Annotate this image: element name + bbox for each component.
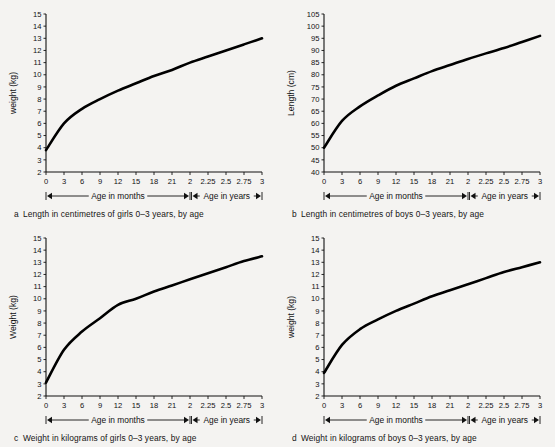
x-tick-label: 18: [428, 401, 436, 410]
y-tick-label: 7: [37, 107, 41, 116]
y-tick-label: 11: [34, 282, 42, 291]
y-tick-label: 2: [37, 168, 41, 177]
y-tick-label: 12: [33, 270, 41, 279]
chart-b-caption-letter: b: [292, 209, 301, 219]
x-tick-label: 21: [446, 401, 454, 410]
chart-d-plot: 2345678910111213141503691215182122.252.5…: [278, 224, 555, 427]
age-in-years-label: Age in years: [203, 415, 250, 425]
x-tick-label: 0: [322, 177, 326, 186]
y-tick-label: 14: [311, 246, 319, 255]
x-tick-label: 6: [80, 401, 84, 410]
y-tick-label: 3: [37, 156, 41, 165]
x-tick-label: 18: [150, 177, 158, 186]
x-tick-label: 3: [538, 401, 542, 410]
y-tick-label: 5: [315, 355, 319, 364]
x-tick-label: 3: [62, 401, 66, 410]
x-tick-label: 15: [410, 401, 418, 410]
y-tick-label: 15: [311, 234, 319, 243]
x-tick-label: 0: [44, 177, 48, 186]
y-tick-label: 45: [311, 156, 319, 165]
x-tick-label: 2.5: [499, 401, 510, 410]
y-tick-label: 75: [311, 83, 319, 92]
chart-a-caption-text: Length in centimetres of girls 0–3 years…: [23, 209, 204, 219]
chart-c-caption-letter: c: [14, 433, 23, 443]
growth-curve-line: [46, 256, 262, 382]
chart-d-caption-letter: d: [292, 433, 301, 443]
y-tick-label: 7: [37, 331, 41, 340]
x-tick-label: 2.25: [479, 177, 494, 186]
y-tick-label: 13: [33, 34, 41, 43]
y-tick-label: 70: [311, 95, 319, 104]
y-tick-label: 2: [37, 392, 41, 401]
x-tick-label: 21: [168, 401, 176, 410]
y-tick-label: 6: [37, 343, 41, 352]
chart-b-caption: bLength in centimetres of boys 0–3 years…: [292, 209, 484, 219]
x-tick-label: 6: [80, 177, 84, 186]
y-tick-label: 12: [311, 270, 319, 279]
x-tick-label: 21: [168, 177, 176, 186]
y-tick-label: 13: [33, 258, 41, 267]
x-tick-label: 3: [340, 177, 344, 186]
age-in-months-label: Age in months: [91, 415, 145, 425]
age-in-years-label: Age in years: [481, 191, 528, 201]
x-tick-label: 15: [410, 177, 418, 186]
chart-a-caption: aLength in centimetres of girls 0–3 year…: [14, 209, 204, 219]
x-tick-label: 21: [446, 177, 454, 186]
x-tick-label: 3: [62, 177, 66, 186]
y-tick-label: 50: [311, 143, 319, 152]
x-tick-label: 0: [322, 401, 326, 410]
age-in-years-label: Age in years: [481, 415, 528, 425]
chart-c-plot: 2345678910111213141503691215182122.252.5…: [0, 224, 277, 427]
x-tick-label: 2.25: [201, 177, 216, 186]
y-tick-label: 10: [311, 294, 319, 303]
y-tick-label: 12: [33, 46, 41, 55]
x-tick-label: 3: [260, 401, 264, 410]
y-tick-label: 3: [315, 380, 319, 389]
y-tick-label: 14: [33, 246, 41, 255]
x-tick-label: 2.75: [515, 401, 530, 410]
x-tick-label: 12: [392, 401, 400, 410]
y-tick-label: 8: [37, 319, 41, 328]
x-tick-label: 2: [188, 177, 192, 186]
x-tick-label: 0: [44, 401, 48, 410]
y-tick-label: 85: [311, 58, 319, 67]
x-tick-label: 9: [98, 401, 102, 410]
chart-c-caption-text: Weight in kilograms of girls 0–3 years, …: [23, 433, 196, 443]
x-tick-label: 2: [466, 177, 470, 186]
y-tick-label: 65: [311, 107, 319, 116]
y-tick-label: 60: [311, 119, 319, 128]
x-tick-label: 15: [132, 177, 140, 186]
x-tick-label: 9: [376, 401, 380, 410]
y-tick-label: 7: [315, 331, 319, 340]
x-tick-label: 3: [340, 401, 344, 410]
y-tick-label: 3: [37, 380, 41, 389]
y-tick-label: 8: [37, 95, 41, 104]
x-tick-label: 2.5: [499, 177, 510, 186]
x-tick-label: 2.75: [515, 177, 530, 186]
growth-curve-line: [324, 36, 540, 148]
x-tick-label: 6: [358, 401, 362, 410]
y-tick-label: 100: [307, 22, 320, 31]
y-tick-label: 5: [37, 131, 41, 140]
y-tick-label: 55: [311, 131, 319, 140]
x-tick-label: 2: [188, 401, 192, 410]
growth-curve-line: [46, 38, 262, 150]
chart-a-caption-letter: a: [14, 209, 23, 219]
y-tick-label: 11: [34, 58, 42, 67]
y-tick-label: 90: [311, 46, 319, 55]
y-tick-label: 4: [315, 367, 319, 376]
x-tick-label: 2.75: [237, 401, 252, 410]
y-tick-label: 40: [311, 168, 319, 177]
y-tick-label: 6: [315, 343, 319, 352]
y-tick-label: 9: [37, 307, 41, 316]
chart-a-plot: 2345678910111213141503691215182122.252.5…: [0, 0, 277, 203]
chart-d-caption-text: Weight in kilograms of boys 0–3 years, b…: [301, 433, 477, 443]
x-tick-label: 12: [392, 177, 400, 186]
x-tick-label: 6: [358, 177, 362, 186]
x-tick-label: 2.25: [479, 401, 494, 410]
x-tick-label: 2.75: [237, 177, 252, 186]
y-tick-label: 11: [312, 282, 320, 291]
x-tick-label: 12: [114, 177, 122, 186]
y-tick-label: 9: [315, 307, 319, 316]
chart-b-plot: 4045505560657075808590951001050369121518…: [278, 0, 555, 203]
